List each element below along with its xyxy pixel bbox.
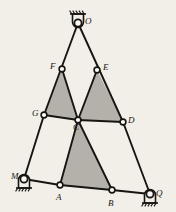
member-D-Q (123, 122, 150, 194)
joint-M (20, 175, 27, 182)
label-E: E (103, 63, 109, 72)
label-O: O (85, 17, 92, 26)
member-G-M (24, 115, 44, 179)
triangle-ECD (78, 70, 123, 122)
joint-G (41, 112, 47, 118)
joint-E (94, 67, 100, 73)
joint-B (109, 187, 115, 193)
label-D: D (128, 116, 135, 125)
truss-figure: OFEGCDMABQ (0, 0, 176, 212)
label-A: A (56, 193, 62, 202)
truss-svg (0, 0, 176, 212)
label-F: F (50, 62, 56, 71)
joint-Q (146, 190, 153, 197)
joint-D (120, 119, 126, 125)
joint-F (59, 66, 65, 72)
label-Q: Q (156, 189, 163, 198)
label-C: C (73, 123, 79, 132)
label-M: M (11, 172, 19, 181)
joint-O (74, 19, 81, 26)
triangle-FGC (44, 69, 78, 120)
joint-A (57, 182, 63, 188)
label-B: B (108, 199, 114, 208)
label-G: G (32, 109, 39, 118)
